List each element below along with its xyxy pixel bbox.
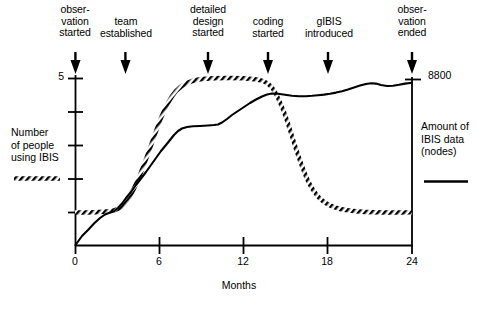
- arrow-team-established: [121, 52, 131, 74]
- series-amount-of-ibis-data: [76, 83, 413, 245]
- arrow-observation-ended: [407, 52, 417, 74]
- arrow-observation-started: [71, 52, 81, 74]
- axis-lines: [75, 75, 413, 246]
- plot-canvas: [0, 0, 478, 312]
- ibis-usage-chart: obser- vation started team established d…: [0, 0, 478, 312]
- arrow-detailed-design-started: [203, 52, 213, 74]
- series-people-using-ibis: [75, 78, 412, 213]
- arrow-coding-started: [263, 52, 273, 74]
- arrow-gibis-introduced: [323, 52, 333, 74]
- annotation-arrows: [71, 52, 418, 74]
